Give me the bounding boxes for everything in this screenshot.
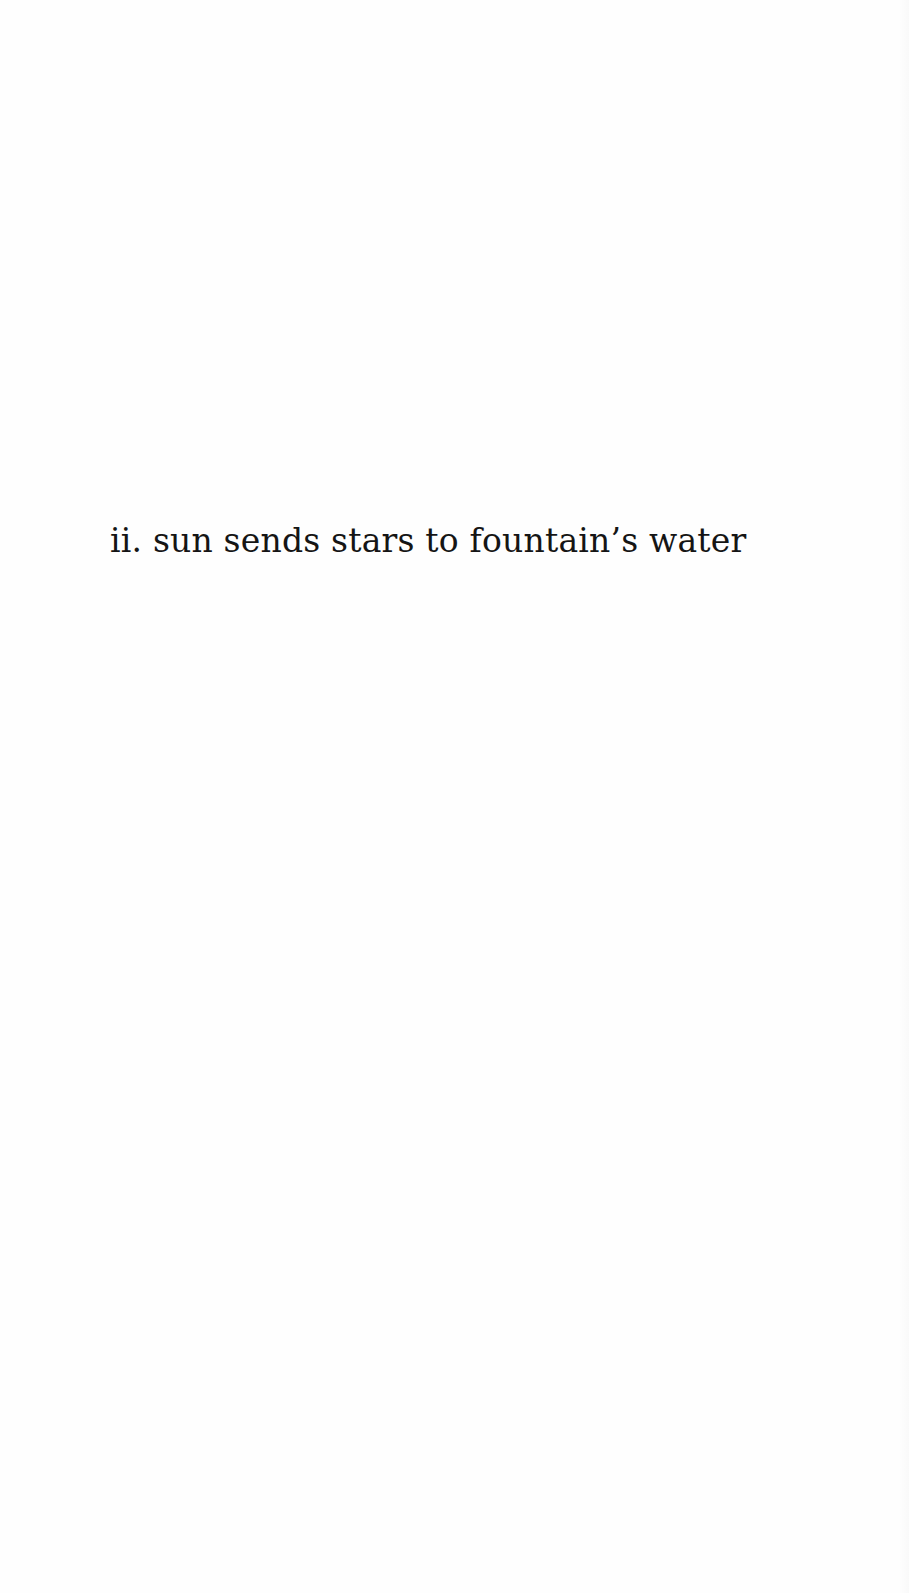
- section-title: ii. sun sends stars to fountain’s water: [110, 517, 747, 565]
- book-page: ii. sun sends stars to fountain’s water: [0, 0, 909, 1593]
- page-edge-shadow: [899, 0, 909, 1593]
